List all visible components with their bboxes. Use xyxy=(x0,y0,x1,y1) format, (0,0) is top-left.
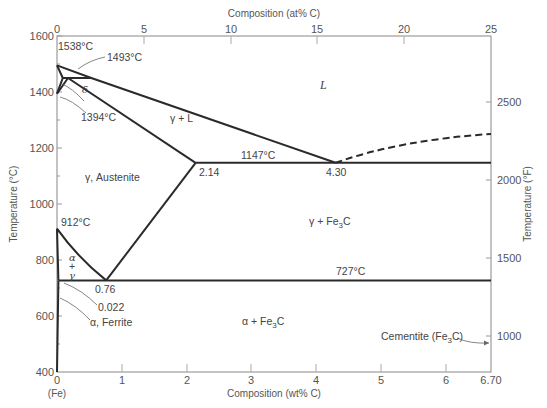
label-0-76: 0.76 xyxy=(95,283,116,295)
top-tick-labels: 0 5 10 15 20 25 xyxy=(54,23,497,35)
svg-text:15: 15 xyxy=(311,23,323,35)
alpha-gamma-boundary-line xyxy=(57,229,58,281)
phase-cementite: Cementite (Fe3C) xyxy=(381,330,463,345)
svg-text:10: 10 xyxy=(225,23,237,35)
svg-text:1500: 1500 xyxy=(497,252,521,264)
left-axis-title: Temperature (°C) xyxy=(8,166,19,243)
bottom-axis-title: Composition (wt% C) xyxy=(227,388,321,399)
bottom-tick-labels: 0 1 2 3 4 5 6 6.70 xyxy=(54,374,502,386)
svg-text:25: 25 xyxy=(485,23,497,35)
alpha-solvus-line xyxy=(57,280,58,372)
phase-diagram-chart: 1600 1400 1200 1000 800 600 400 2500 200… xyxy=(0,0,547,408)
a3-line xyxy=(57,229,106,281)
right-axis-ticks xyxy=(486,102,491,336)
leader-0022 xyxy=(64,283,97,305)
phase-gamma-liquid: γ + L xyxy=(170,112,193,124)
svg-text:0: 0 xyxy=(54,374,60,386)
svg-text:600: 600 xyxy=(36,310,54,322)
label-2-14: 2.14 xyxy=(199,166,220,178)
arrowheads xyxy=(484,341,489,346)
right-axis-title: Temperature (°F) xyxy=(522,166,533,242)
fe-label: (Fe) xyxy=(48,388,66,399)
label-1147: 1147°C xyxy=(241,149,276,161)
right-tick-labels: 2500 2000 1500 1000 xyxy=(497,96,521,342)
leader-lines xyxy=(60,57,489,343)
phase-austenite: γ, Austenite xyxy=(85,171,140,183)
label-1394: 1394°C xyxy=(81,111,117,123)
svg-text:6: 6 xyxy=(443,374,449,386)
svg-text:1000: 1000 xyxy=(497,330,521,342)
label-727: 727°C xyxy=(336,265,366,277)
label-912: 912°C xyxy=(61,216,91,228)
phase-gamma-cementite: γ + Fe3C xyxy=(309,215,351,230)
svg-text:1600: 1600 xyxy=(30,30,54,42)
svg-text:1200: 1200 xyxy=(30,142,54,154)
svg-text:6.70: 6.70 xyxy=(480,374,501,386)
label-1538: 1538°C xyxy=(58,40,94,52)
left-tick-labels: 1600 1400 1200 1000 800 600 400 xyxy=(30,30,54,378)
svg-text:800: 800 xyxy=(36,254,54,266)
svg-text:2000: 2000 xyxy=(497,174,521,186)
arrow-cementite xyxy=(484,341,489,346)
svg-text:5: 5 xyxy=(378,374,384,386)
svg-text:5: 5 xyxy=(141,23,147,35)
svg-text:1: 1 xyxy=(119,374,125,386)
svg-text:20: 20 xyxy=(398,23,410,35)
svg-text:400: 400 xyxy=(36,366,54,378)
phase-alpha-gamma-gamma: γ xyxy=(69,270,75,281)
bottom-axis-ticks xyxy=(122,364,446,372)
dashed-liquidus-line xyxy=(336,134,491,163)
phase-delta: δ xyxy=(82,84,88,95)
leader-1493 xyxy=(78,57,105,69)
phase-ferrite: α, Ferrite xyxy=(90,316,132,328)
phase-alpha-cementite: α + Fe3C xyxy=(242,315,285,330)
svg-text:2500: 2500 xyxy=(497,96,521,108)
label-0-022: 0.022 xyxy=(98,301,124,313)
svg-text:0: 0 xyxy=(54,23,60,35)
label-4-30: 4.30 xyxy=(326,166,347,178)
label-1493: 1493°C xyxy=(107,51,143,63)
svg-text:1000: 1000 xyxy=(30,198,54,210)
svg-text:3: 3 xyxy=(248,374,254,386)
svg-text:2: 2 xyxy=(184,374,190,386)
top-axis-ticks xyxy=(144,36,404,44)
top-axis-title: Composition (at% C) xyxy=(228,8,320,19)
svg-text:1400: 1400 xyxy=(30,86,54,98)
leader-ferrite xyxy=(60,298,90,320)
svg-text:4: 4 xyxy=(313,374,319,386)
phase-liquid: L xyxy=(319,78,327,92)
